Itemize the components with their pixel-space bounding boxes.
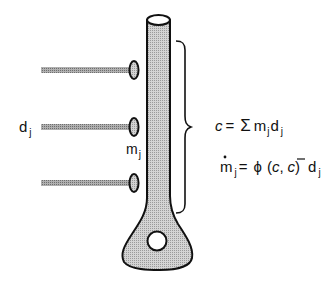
synaptic-bouton [130,61,139,79]
axon-rod [41,124,130,130]
svg-text:mj=ϕ(c,c)dj: mj=ϕ(c,c)dj [220,158,321,178]
dendrite-top-opening [147,15,170,25]
neuron-diagram: dj mj c=Σmjdj mj=ϕ(c,c)dj [0,0,336,283]
synaptic-bouton [130,174,139,192]
derivative-dot [224,156,227,159]
label-dj: dj [19,118,32,138]
equation-update: mj=ϕ(c,c)dj [220,156,321,178]
synapse-2 [41,118,139,136]
nucleus [148,232,167,251]
axon-rod [41,67,130,73]
label-mj: mj [126,141,141,160]
curly-brace [176,41,191,213]
synaptic-bouton [130,118,139,136]
synapse-1 [41,61,139,79]
equation-sum: c=Σmjdj [215,116,283,137]
synapse-3 [41,174,139,192]
axon-rod [41,180,130,186]
